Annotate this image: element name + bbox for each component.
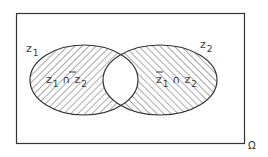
- set-label-z2: z2: [200, 38, 213, 54]
- region-label-z1-not-z2: z1∩z2: [44, 68, 90, 89]
- set-label-z1: z1: [26, 42, 39, 58]
- venn-diagram: z1 z2 z1∩z2 z1∩z2 Ω: [0, 0, 268, 157]
- universe-label: Ω: [248, 140, 256, 151]
